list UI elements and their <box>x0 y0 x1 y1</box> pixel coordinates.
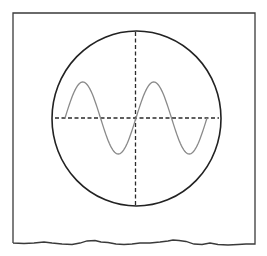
oscilloscope-figure <box>0 0 267 256</box>
paper-frame <box>13 13 255 245</box>
